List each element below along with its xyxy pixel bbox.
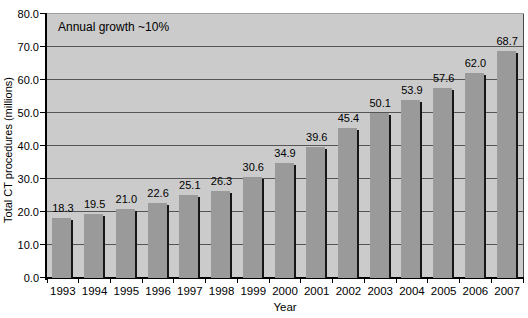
y-tick <box>40 112 45 113</box>
x-tick-label: 2005 <box>431 285 457 298</box>
bar <box>275 163 294 278</box>
bar-value-label: 26.3 <box>211 176 232 187</box>
y-tick <box>40 79 45 80</box>
bar-value-label: 45.4 <box>338 113 359 124</box>
bar-shadow <box>167 205 169 278</box>
x-tick <box>237 279 238 283</box>
y-tick-label: 70.0 <box>1 41 39 53</box>
bar <box>306 147 325 278</box>
x-tick-label: 2003 <box>367 285 393 298</box>
bar <box>401 100 420 278</box>
bar-shadow <box>452 90 454 278</box>
x-tick <box>459 279 460 283</box>
bar <box>243 177 262 278</box>
x-tick-label: 2007 <box>494 285 520 298</box>
x-tick-label: 2000 <box>272 285 298 298</box>
x-tick-label: 2006 <box>463 285 489 298</box>
x-tick <box>332 279 333 283</box>
gridline <box>47 46 523 47</box>
bar-value-label: 34.9 <box>274 148 295 159</box>
x-tick <box>173 279 174 283</box>
x-tick <box>300 279 301 283</box>
x-tick-label: 2002 <box>336 285 362 298</box>
y-tick-label: 20.0 <box>1 206 39 218</box>
x-tick-label: 1998 <box>209 285 235 298</box>
y-tick <box>40 277 45 278</box>
ct-procedures-bar-chart: Annual growth ~10% Total CT procedures (… <box>0 0 528 318</box>
bar-value-label: 25.1 <box>179 180 200 191</box>
bar-shadow <box>71 220 73 278</box>
bar <box>84 214 103 278</box>
x-tick-label: 2001 <box>304 285 330 298</box>
bar-value-label: 18.3 <box>52 203 73 214</box>
bar-value-label: 57.6 <box>433 73 454 84</box>
x-tick-label: 1994 <box>82 285 108 298</box>
x-tick <box>47 279 48 283</box>
y-tick <box>40 211 45 212</box>
x-axis-title: Year <box>273 301 296 314</box>
bar <box>148 203 167 278</box>
plot-border-top <box>47 13 524 14</box>
bar <box>179 195 198 278</box>
x-tick <box>523 279 524 283</box>
bar-shadow <box>516 53 518 278</box>
bar-shadow <box>484 75 486 278</box>
y-tick-label: 40.0 <box>1 140 39 152</box>
y-tick-label: 50.0 <box>1 107 39 119</box>
x-tick <box>205 279 206 283</box>
y-tick <box>40 13 45 14</box>
x-tick-label: 1993 <box>50 285 76 298</box>
annotation-annual-growth: Annual growth ~10% <box>58 21 169 34</box>
bar-shadow <box>357 130 359 278</box>
x-tick <box>427 279 428 283</box>
x-tick <box>491 279 492 283</box>
y-tick-label: 30.0 <box>1 173 39 185</box>
bar-value-label: 39.6 <box>306 132 327 143</box>
bar-value-label: 22.6 <box>147 188 168 199</box>
x-tick-label: 2004 <box>399 285 425 298</box>
bar-shadow <box>262 179 264 278</box>
bar-shadow <box>389 115 391 278</box>
x-tick-label: 1995 <box>114 285 140 298</box>
bar-shadow <box>135 211 137 278</box>
x-tick-label: 1996 <box>145 285 171 298</box>
bar <box>52 218 71 278</box>
bar-shadow <box>325 149 327 278</box>
plot-border-right <box>523 14 524 278</box>
y-tick <box>40 145 45 146</box>
y-tick-label: 60.0 <box>1 74 39 86</box>
bar-value-label: 50.1 <box>369 98 390 109</box>
y-tick-label: 10.0 <box>1 239 39 251</box>
bar <box>497 51 516 278</box>
x-tick <box>269 279 270 283</box>
bar-shadow <box>103 216 105 278</box>
x-tick <box>396 279 397 283</box>
x-tick-label: 1997 <box>177 285 203 298</box>
bar-value-label: 30.6 <box>243 162 264 173</box>
bar-value-label: 21.0 <box>116 194 137 205</box>
bar-value-label: 53.9 <box>401 85 422 96</box>
bar <box>433 88 452 278</box>
y-tick <box>40 244 45 245</box>
bar <box>370 113 389 278</box>
bar-value-label: 68.7 <box>496 36 517 47</box>
y-axis-line <box>45 13 47 280</box>
bar-shadow <box>420 102 422 278</box>
x-tick-label: 1999 <box>240 285 266 298</box>
bar-value-label: 62.0 <box>465 58 486 69</box>
bar-shadow <box>230 193 232 278</box>
x-tick <box>110 279 111 283</box>
bar <box>338 128 357 278</box>
x-tick <box>142 279 143 283</box>
y-tick-label: 0.0 <box>1 272 39 284</box>
bar-shadow <box>294 165 296 278</box>
bar-value-label: 19.5 <box>84 199 105 210</box>
x-tick <box>364 279 365 283</box>
bar <box>116 209 135 278</box>
bar <box>211 191 230 278</box>
y-tick <box>40 46 45 47</box>
bar-shadow <box>198 197 200 278</box>
x-tick <box>78 279 79 283</box>
y-tick <box>40 178 45 179</box>
bar <box>465 73 484 278</box>
